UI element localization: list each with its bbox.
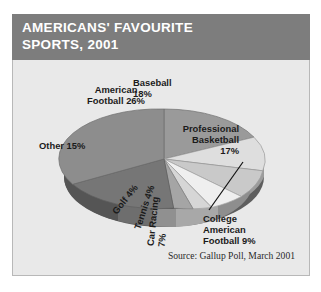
chart-source-note: Source: Gallup Poll, March 2001: [13, 250, 295, 261]
pie-label-pro-basketball: Professional Basketball 17%: [141, 124, 239, 156]
chart-header-band: AMERICANS' FAVOURITE SPORTS, 2001: [12, 14, 310, 60]
chart-body-panel: American Football 26% Baseball 18% Profe…: [12, 60, 310, 276]
chart-title: AMERICANS' FAVOURITE SPORTS, 2001: [22, 20, 272, 53]
pie-label-college-football: College American Football 9%: [203, 214, 289, 246]
chart-figure: AMERICANS' FAVOURITE SPORTS, 2001: [12, 14, 310, 276]
pie-label-baseball: Baseball 18%: [133, 78, 193, 100]
pie-chart: American Football 26% Baseball 18% Profe…: [13, 60, 309, 276]
pie-label-other: Other 15%: [39, 141, 109, 152]
